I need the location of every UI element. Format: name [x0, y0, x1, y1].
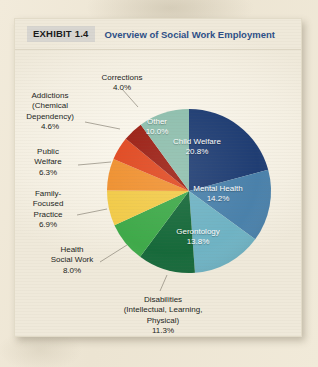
- outer-label-family-l2: Focused: [19, 199, 77, 209]
- outer-label-disabilities-l2: (Intellectual, Learning,: [83, 305, 243, 315]
- outer-label-family-l3: Practice: [19, 210, 77, 220]
- page-title: Overview of Social Work Employment: [105, 29, 275, 40]
- outer-label-disabilities-l1: Disabilities: [83, 295, 243, 305]
- outer-label-addictions-l2: (Chemical: [14, 101, 89, 111]
- outer-label-public-welfare-l2: Welfare: [19, 157, 77, 167]
- outer-label-health-l2: Social Work: [37, 255, 107, 265]
- leader-line-disabilities: [160, 275, 167, 291]
- outer-label-addictions: Addictions (Chemical Dependency) 4.6%: [14, 91, 89, 133]
- outer-label-public-welfare-l1: Public: [19, 147, 77, 157]
- outer-label-health-social-work: Health Social Work 8.0%: [37, 245, 107, 276]
- outer-label-disabilities-l3: Physical): [83, 316, 243, 326]
- outer-label-corrections-name: Corrections: [73, 73, 171, 83]
- leader-line-family-focused: [77, 209, 107, 215]
- outer-label-addictions-value: 4.6%: [14, 122, 89, 132]
- outer-label-addictions-l3: Dependency): [14, 112, 89, 122]
- outer-label-addictions-l1: Addictions: [14, 91, 89, 101]
- outer-label-health-value: 8.0%: [37, 266, 107, 276]
- outer-label-family-l1: Family-: [19, 189, 77, 199]
- outer-label-public-welfare-value: 6.3%: [19, 168, 77, 178]
- outer-label-family-value: 6.9%: [19, 220, 77, 230]
- pie-chart: Child Welfare 20.8% Mental Health 14.2% …: [15, 49, 301, 336]
- outer-label-disabilities-value: 11.3%: [83, 326, 243, 336]
- exhibit-number-badge: EXHIBIT 1.4: [27, 26, 95, 42]
- leader-line-addictions: [85, 122, 120, 129]
- leader-line-public-welfare: [78, 162, 111, 165]
- outer-label-public-welfare: Public Welfare 6.3%: [19, 147, 77, 178]
- exhibit-header: EXHIBIT 1.4 Overview of Social Work Empl…: [15, 19, 301, 49]
- outer-label-family-focused-practice: Family- Focused Practice 6.9%: [19, 189, 77, 231]
- outer-label-health-l1: Health: [37, 245, 107, 255]
- exhibit-card: EXHIBIT 1.4 Overview of Social Work Empl…: [14, 18, 302, 337]
- pie-shading-overlay: [107, 109, 271, 273]
- outer-label-disabilities: Disabilities (Intellectual, Learning, Ph…: [83, 295, 243, 337]
